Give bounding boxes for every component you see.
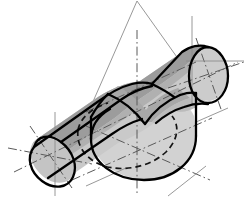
technical-drawing-figure: Isometric technical drawing of two inter… bbox=[0, 0, 244, 201]
drawing-canvas bbox=[0, 0, 244, 201]
